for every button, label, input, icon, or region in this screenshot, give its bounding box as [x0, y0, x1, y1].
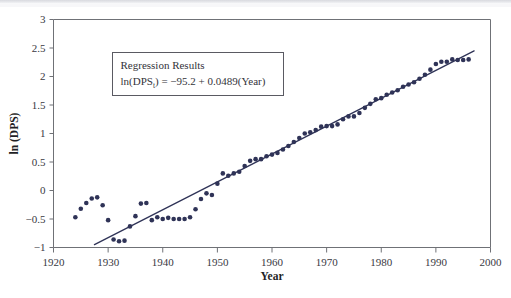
data-point — [363, 106, 368, 111]
data-point — [171, 217, 176, 222]
data-point — [357, 111, 362, 116]
data-point — [379, 96, 384, 101]
data-point — [133, 214, 138, 219]
data-point — [335, 122, 340, 127]
data-point — [297, 136, 302, 141]
data-point — [106, 218, 111, 223]
scatter-plot-canvas: −1−0.500.511.522.53192019301940195019601… — [0, 0, 511, 298]
x-axis-title: Year — [261, 270, 284, 282]
y-axis-title: ln (DPS) — [8, 112, 21, 154]
data-point — [79, 206, 84, 211]
data-point — [89, 196, 94, 201]
data-point — [160, 217, 165, 222]
data-point — [450, 57, 455, 62]
y-tick-label: 0.5 — [32, 156, 46, 168]
data-point — [215, 181, 220, 186]
y-tick-label: 0 — [40, 184, 46, 196]
y-tick-label: 1.5 — [32, 99, 46, 111]
data-point — [155, 215, 160, 220]
data-point — [128, 224, 133, 229]
y-tick-label: 2 — [40, 70, 46, 82]
data-point — [253, 157, 258, 162]
data-point — [193, 207, 198, 212]
y-tick-label: −0.5 — [26, 213, 46, 225]
x-tick-label: 1960 — [261, 256, 284, 268]
data-point — [182, 217, 187, 222]
data-point — [275, 151, 280, 156]
data-point — [122, 238, 127, 243]
data-point — [221, 171, 226, 176]
data-point — [73, 215, 78, 220]
data-point — [417, 76, 422, 81]
data-point — [292, 140, 297, 145]
data-point — [319, 124, 324, 129]
data-point — [204, 191, 209, 196]
data-point — [373, 97, 378, 102]
data-point — [264, 154, 269, 159]
y-tick-label: 1 — [40, 127, 46, 139]
data-point — [390, 90, 395, 95]
figure-panel: −1−0.500.511.522.53192019301940195019601… — [0, 0, 511, 298]
data-point — [117, 239, 122, 244]
regression-equation: ln(DPSt) = −95.2 + 0.0489(Year) — [121, 75, 266, 90]
data-point — [139, 201, 144, 206]
regression-results-title: Regression Results — [121, 59, 205, 71]
x-tick-label: 1940 — [152, 256, 175, 268]
data-point — [341, 117, 346, 122]
data-point — [100, 203, 105, 208]
data-point — [166, 216, 171, 221]
data-point — [324, 124, 329, 129]
data-point — [286, 144, 291, 149]
data-point — [231, 171, 236, 176]
plot-frame — [54, 20, 491, 248]
data-point — [144, 201, 149, 206]
x-tick-label: 1980 — [370, 256, 393, 268]
data-point — [423, 72, 428, 77]
data-point — [84, 201, 89, 206]
x-tick-label: 1990 — [425, 256, 448, 268]
data-point — [384, 92, 389, 97]
data-point — [226, 173, 231, 178]
data-point — [188, 215, 193, 220]
data-point — [352, 114, 357, 119]
data-point — [210, 193, 215, 198]
data-point — [412, 80, 417, 85]
data-point — [308, 130, 313, 135]
data-point — [401, 84, 406, 89]
data-point — [111, 237, 116, 242]
y-tick-label: 3 — [40, 13, 46, 25]
data-point — [439, 59, 444, 64]
y-tick-label: −1 — [34, 241, 46, 253]
data-point — [237, 169, 242, 174]
data-point — [95, 195, 100, 200]
data-point — [259, 157, 264, 162]
data-point — [445, 59, 450, 64]
data-point — [302, 131, 307, 136]
data-point — [199, 197, 204, 202]
data-point — [177, 217, 182, 222]
data-point — [434, 62, 439, 67]
data-point — [242, 164, 247, 169]
x-tick-label: 2000 — [480, 256, 503, 268]
data-point — [330, 124, 335, 129]
data-point — [406, 82, 411, 87]
data-point — [150, 218, 155, 223]
data-point — [428, 67, 433, 72]
data-point — [368, 102, 373, 107]
data-point — [313, 128, 318, 133]
data-point — [248, 159, 253, 164]
x-tick-label: 1930 — [97, 256, 120, 268]
x-tick-label: 1920 — [43, 256, 66, 268]
data-point — [346, 114, 351, 119]
x-tick-label: 1970 — [316, 256, 339, 268]
data-point — [281, 147, 286, 152]
data-point — [461, 58, 466, 63]
y-tick-label: 2.5 — [32, 42, 46, 54]
data-point — [270, 152, 275, 157]
data-point — [395, 88, 400, 93]
data-point — [466, 57, 471, 62]
x-tick-label: 1950 — [206, 256, 229, 268]
data-point — [455, 58, 460, 63]
